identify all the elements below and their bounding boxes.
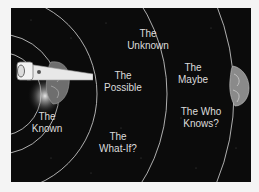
zone-label-possible: The Possible xyxy=(104,70,142,94)
zone-label-maybe: The Maybe xyxy=(178,62,208,86)
zone-label-unknown: The Unknown xyxy=(127,28,169,52)
diagram-panel: The Known The Possible The What-If? The … xyxy=(11,8,251,182)
brain-icon xyxy=(227,64,251,108)
zone-label-known: The Known xyxy=(32,111,63,135)
zone-label-what-if: The What-If? xyxy=(99,131,137,155)
telescope-icon xyxy=(13,58,93,88)
zone-label-who-knows: The Who Knows? xyxy=(181,106,222,130)
